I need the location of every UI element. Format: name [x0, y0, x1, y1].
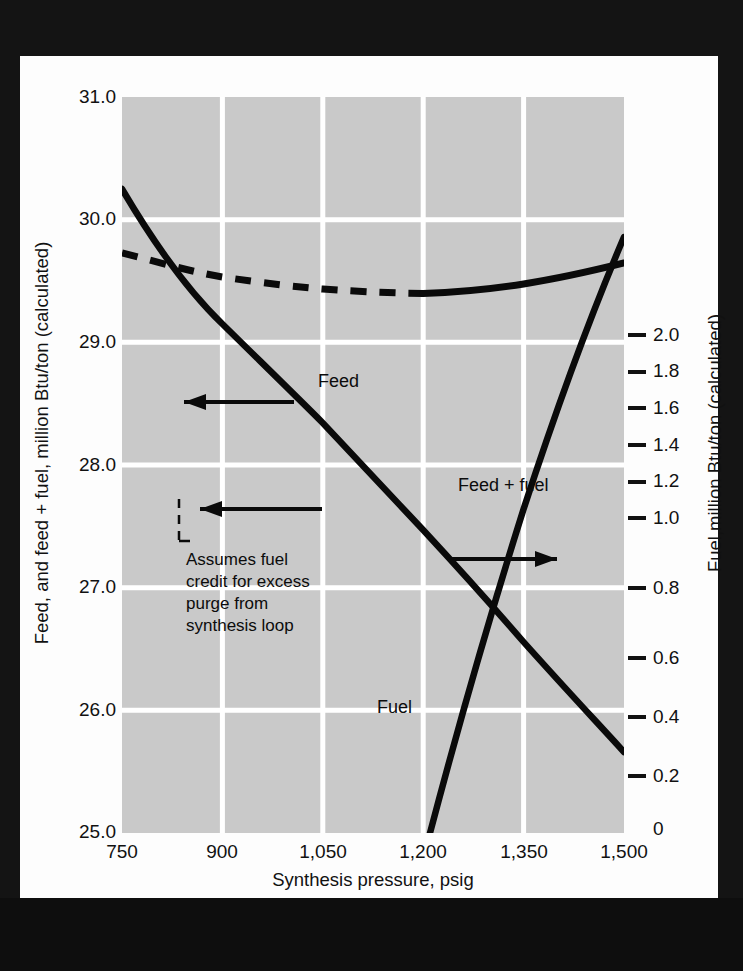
scan-border-left [0, 0, 20, 903]
y-axis-title: Feed, and feed + fuel, million Btu/ton (… [31, 123, 53, 763]
y-tick-label-29: 29.0 [54, 331, 116, 353]
y2-tick-label-0: 0 [653, 818, 715, 840]
feed-arrow-icon [184, 394, 294, 410]
x-axis-title: Synthesis pressure, psig [122, 869, 624, 891]
annotation-leader-line [179, 499, 190, 541]
y-tick-label-28: 28.0 [54, 454, 116, 476]
y2-axis-title: Fuel,million Btu/ton (calculated) [704, 123, 726, 763]
y-tick-label-25: 25.0 [54, 821, 116, 843]
annotation-assumes-note: Assumes fuel credit for excess purge fro… [186, 549, 310, 637]
x-tick-label-1500: 1,500 [579, 841, 669, 863]
caption-bar: Synthesis pressure versus feed-and-fuel … [0, 898, 743, 971]
series-label-fuel: Fuel [377, 697, 412, 718]
y-tick-label-30: 30.0 [54, 208, 116, 230]
curve-feed [122, 189, 624, 752]
y-tick-label-26: 26.0 [54, 699, 116, 721]
y-tick-label-31: 31.0 [54, 86, 116, 108]
figure-root: Feed Feed + fuel Fuel Assumes fuel credi… [0, 0, 743, 971]
x-tick-label-1200: 1,200 [378, 841, 468, 863]
feed-plus-fuel-arrow-icon [200, 501, 322, 517]
plot-area: Feed Feed + fuel Fuel Assumes fuel credi… [122, 97, 624, 833]
x-tick-label-900: 900 [177, 841, 267, 863]
right-axis-tick-marks [624, 97, 654, 837]
y2-tick-label-0-2: 0.2 [653, 765, 715, 787]
scan-border-top [0, 0, 743, 36]
scan-border-inner [20, 36, 716, 58]
x-tick-label-1350: 1,350 [479, 841, 569, 863]
x-tick-label-1050: 1,050 [278, 841, 368, 863]
series-label-feed: Feed [318, 371, 359, 392]
chart-canvas [122, 97, 624, 833]
series-label-feed-plus-fuel: Feed + fuel [458, 475, 549, 496]
curve-fuel [430, 237, 624, 833]
x-tick-label-750: 750 [77, 841, 167, 863]
y-tick-label-27: 27.0 [54, 576, 116, 598]
